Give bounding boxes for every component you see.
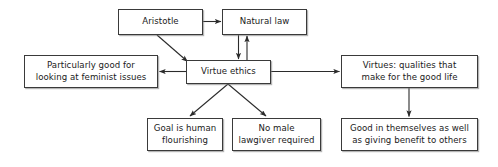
node-virtue-ethics-label: Virtue ethics bbox=[198, 66, 259, 78]
edge-virtue-ethics-to-goal bbox=[190, 84, 228, 116]
node-particularly-good-for-feminist-issues[interactable]: Particularly good for looking at feminis… bbox=[24, 55, 158, 88]
node-virtues-qualities[interactable]: Virtues: qualities that make for the goo… bbox=[341, 55, 478, 88]
node-no-male-lawgiver-required[interactable]: No male lawgiver required bbox=[232, 118, 321, 151]
node-good-in-self-label: Good in themselves as well as giving ben… bbox=[347, 123, 472, 146]
edge-virtue-ethics-to-no-male bbox=[228, 84, 266, 116]
node-aristotle-label: Aristotle bbox=[139, 16, 181, 28]
node-goal-label: Goal is human flourishing bbox=[151, 123, 220, 146]
node-good-in-themselves[interactable]: Good in themselves as well as giving ben… bbox=[341, 118, 478, 151]
concept-map-diagram: Aristotle Natural law Particularly good … bbox=[0, 0, 498, 167]
node-virtue-ethics[interactable]: Virtue ethics bbox=[186, 60, 271, 84]
node-virtues-label: Virtues: qualities that make for the goo… bbox=[358, 60, 460, 83]
node-natural-law[interactable]: Natural law bbox=[222, 9, 307, 35]
node-natural-law-label: Natural law bbox=[237, 16, 293, 28]
edge-aristotle-to-virtue-ethics bbox=[157, 35, 188, 62]
node-goal-is-human-flourishing[interactable]: Goal is human flourishing bbox=[147, 118, 223, 151]
node-no-male-label: No male lawgiver required bbox=[235, 123, 317, 146]
node-aristotle[interactable]: Aristotle bbox=[118, 9, 203, 35]
node-particularly-label: Particularly good for looking at feminis… bbox=[33, 60, 150, 83]
